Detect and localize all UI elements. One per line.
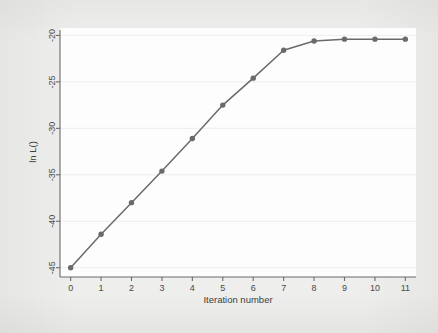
gridlines-group	[60, 35, 416, 267]
y-axis-title: ln L()	[27, 141, 38, 163]
x-tick-label: 11	[401, 283, 410, 293]
axes-group	[60, 30, 416, 277]
data-point-marker	[220, 102, 225, 107]
data-point-marker	[342, 36, 347, 41]
x-axis-title: Iteration number	[203, 294, 272, 305]
y-tick-label: -40	[47, 215, 57, 228]
series-line	[71, 39, 406, 268]
data-point-marker	[159, 168, 164, 173]
data-point-marker	[372, 36, 377, 41]
figure-container: -20-25-30-35-40-4501234567891011 Iterati…	[0, 0, 438, 333]
tick-marks-group	[56, 35, 405, 281]
data-point-marker	[281, 48, 286, 53]
chart-canvas: -20-25-30-35-40-4501234567891011 Iterati…	[0, 0, 438, 333]
x-tick-label: 10	[370, 283, 380, 293]
x-tick-label: 3	[159, 283, 164, 293]
data-markers-group	[68, 36, 408, 270]
y-tick-label: -30	[47, 122, 57, 135]
data-series-group	[71, 39, 406, 268]
y-tick-label: -35	[47, 168, 57, 181]
x-tick-label: 7	[281, 283, 286, 293]
data-point-marker	[403, 36, 408, 41]
tick-labels-group: -20-25-30-35-40-4501234567891011	[47, 29, 410, 293]
x-tick-label: 5	[220, 283, 225, 293]
x-tick-label: 0	[68, 283, 73, 293]
x-tick-label: 1	[99, 283, 104, 293]
x-tick-label: 6	[251, 283, 256, 293]
data-point-marker	[129, 200, 134, 205]
data-point-marker	[98, 232, 103, 237]
data-point-marker	[251, 75, 256, 80]
x-tick-label: 2	[129, 283, 134, 293]
y-tick-label: -20	[47, 29, 57, 42]
data-point-marker	[190, 136, 195, 141]
data-point-marker	[68, 265, 73, 270]
x-tick-label: 4	[190, 283, 195, 293]
data-point-marker	[311, 38, 316, 43]
y-tick-label: -25	[47, 75, 57, 88]
x-tick-label: 9	[342, 283, 347, 293]
x-tick-label: 8	[312, 283, 317, 293]
y-tick-label: -45	[47, 261, 57, 274]
